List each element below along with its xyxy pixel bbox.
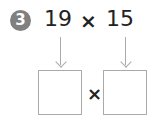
answer-multiply-sign: × (87, 84, 102, 104)
right-operand: 15 (106, 4, 134, 34)
problem-number-badge: 3 (10, 10, 31, 31)
left-operand: 19 (44, 4, 72, 34)
arrowhead-right-icon (120, 56, 131, 67)
answer-box-1[interactable] (38, 70, 82, 115)
arrowhead-left-icon (55, 56, 66, 67)
answer-box-2[interactable] (103, 70, 147, 115)
multiply-sign: × (80, 6, 97, 36)
